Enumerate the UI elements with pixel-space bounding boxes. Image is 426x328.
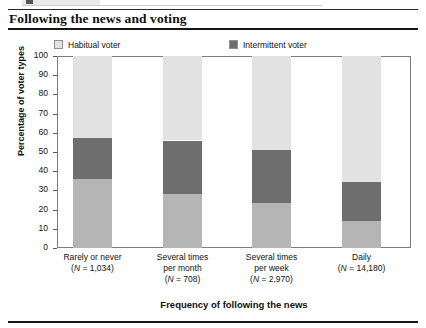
bar-segment-2-habitual-voter[interactable] xyxy=(252,56,291,150)
title-rule-upper xyxy=(8,9,418,10)
y-tick-label-20: 20 xyxy=(39,204,48,214)
bar-group-1[interactable] xyxy=(163,56,202,248)
y-tick-mark-60 xyxy=(53,133,57,134)
footer-rule xyxy=(8,321,418,323)
y-tick-label-10: 10 xyxy=(39,223,48,233)
y-tick-label-80: 80 xyxy=(39,88,48,98)
legend-swatch-habitual_voter xyxy=(54,40,63,49)
y-tick-mark-70 xyxy=(53,114,57,115)
y-tick-mark-30 xyxy=(53,190,57,191)
x-axis-label-3-line-0: Daily xyxy=(312,252,412,263)
y-tick-100: 100 xyxy=(0,56,57,57)
x-axis-label-0: Rarely or never(N = 1,034) xyxy=(43,252,143,274)
y-tick-50: 50 xyxy=(0,152,57,153)
y-tick-mark-20 xyxy=(53,210,57,211)
y-tick-mark-50 xyxy=(53,152,57,153)
y-tick-70: 70 xyxy=(0,114,57,115)
y-tick-label-100: 100 xyxy=(34,50,48,60)
y-tick-80: 80 xyxy=(0,94,57,95)
x-axis-label-2: Several timesper week(N = 2,970) xyxy=(222,252,322,285)
y-tick-mark-0 xyxy=(53,248,57,249)
y-tick-mark-80 xyxy=(53,94,57,95)
bar-segment-3-habitual-voter[interactable] xyxy=(342,56,381,182)
y-tick-60: 60 xyxy=(0,133,57,134)
bar-segment-3-habitual-non-voter[interactable] xyxy=(342,221,381,248)
y-tick-mark-90 xyxy=(53,75,57,76)
x-axis-label-2-line-1: per week xyxy=(222,263,322,274)
bar-group-2[interactable] xyxy=(252,56,291,248)
chart-legend: Habitual voterIntermittent voterHabitual… xyxy=(54,34,420,48)
cutoff-sliver-mark xyxy=(26,0,33,4)
y-tick-0: 0 xyxy=(0,248,57,249)
bar-segment-1-intermittent-voter[interactable] xyxy=(163,141,202,195)
y-tick-label-40: 40 xyxy=(39,165,48,175)
x-axis-label-1-line-2: (N = 708) xyxy=(133,274,233,285)
x-axis-label-2-line-0: Several times xyxy=(222,252,322,263)
x-axis-label-0-line-0: Rarely or never xyxy=(43,252,143,263)
bar-segment-0-habitual-voter[interactable] xyxy=(73,56,112,138)
y-tick-label-50: 50 xyxy=(39,146,48,156)
y-tick-label-60: 60 xyxy=(39,127,48,137)
y-tick-30: 30 xyxy=(0,190,57,191)
x-axis-title: Frequency of following the news xyxy=(57,299,411,310)
legend-item-habitual_voter: Habitual voter xyxy=(54,34,120,48)
cutoff-sliver-rule xyxy=(22,5,322,6)
page-title: Following the news and voting xyxy=(9,11,419,27)
bar-segment-2-habitual-non-voter[interactable] xyxy=(252,203,291,248)
y-tick-90: 90 xyxy=(0,75,57,76)
y-tick-label-70: 70 xyxy=(39,108,48,118)
y-tick-mark-10 xyxy=(53,229,57,230)
legend-label-habitual_voter: Habitual voter xyxy=(68,40,120,50)
y-tick-20: 20 xyxy=(0,210,57,211)
y-tick-label-30: 30 xyxy=(39,184,48,194)
x-axis-label-3-line-1: (N = 14,180) xyxy=(312,263,412,274)
y-tick-mark-40 xyxy=(53,171,57,172)
y-tick-mark-100 xyxy=(53,56,57,57)
bar-group-0[interactable] xyxy=(73,56,112,248)
bar-segment-3-intermittent-voter[interactable] xyxy=(342,182,381,221)
y-tick-10: 10 xyxy=(0,229,57,230)
y-axis-title: Percentage of voter types xyxy=(16,26,26,176)
x-axis-label-0-line-1: (N = 1,034) xyxy=(43,263,143,274)
x-axis-label-1-line-1: per month xyxy=(133,263,233,274)
bar-group-3[interactable] xyxy=(342,56,381,248)
y-tick-label-0: 0 xyxy=(43,242,48,252)
bar-segment-0-habitual-non-voter[interactable] xyxy=(73,179,112,248)
x-axis-label-1-line-0: Several times xyxy=(133,252,233,263)
bar-segment-1-habitual-voter[interactable] xyxy=(163,56,202,140)
x-axis-label-3: Daily(N = 14,180) xyxy=(312,252,412,274)
bar-segment-1-habitual-non-voter[interactable] xyxy=(163,194,202,248)
bar-segment-0-intermittent-voter[interactable] xyxy=(73,138,112,179)
x-axis-label-2-line-2: (N = 2,970) xyxy=(222,274,322,285)
page-top-cutoff-artifact xyxy=(0,0,426,9)
bar-segment-2-intermittent-voter[interactable] xyxy=(252,150,291,203)
y-tick-label-90: 90 xyxy=(39,69,48,79)
title-rule-lower xyxy=(8,28,418,30)
y-tick-40: 40 xyxy=(0,171,57,172)
x-axis-label-1: Several timesper month(N = 708) xyxy=(133,252,233,285)
legend-label-intermittent_voter: Intermittent voter xyxy=(243,40,307,50)
legend-item-intermittent_voter: Intermittent voter xyxy=(229,34,307,48)
legend-swatch-intermittent_voter xyxy=(229,40,238,49)
